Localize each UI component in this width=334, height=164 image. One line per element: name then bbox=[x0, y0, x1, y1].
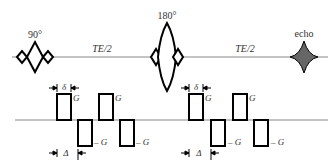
small-delta-label: δ bbox=[194, 82, 199, 92]
gradient-neg-g-label: – G bbox=[270, 137, 285, 147]
gradient-neg-g-label: – G bbox=[135, 137, 150, 147]
rf-pulse-90 bbox=[17, 42, 53, 72]
pulse-sequence-diagram: 90° TE/2 180° TE/2 echo G G – G – G δ Δ bbox=[0, 0, 334, 164]
big-delta-label: Δ bbox=[62, 148, 68, 158]
te-half-label-2: TE/2 bbox=[235, 43, 254, 54]
gradient-g-label: G bbox=[249, 93, 256, 103]
te-half-label-1: TE/2 bbox=[92, 43, 111, 54]
gradient-g-label: G bbox=[205, 93, 212, 103]
echo-label: echo bbox=[295, 28, 314, 39]
gradient-g-label: G bbox=[73, 93, 80, 103]
gradient-neg-g-label: – G bbox=[93, 137, 108, 147]
small-delta-label: δ bbox=[62, 82, 67, 92]
big-delta-label: Δ bbox=[195, 148, 201, 158]
rf-pulse-180 bbox=[151, 23, 183, 91]
gradient-g-label: G bbox=[115, 93, 122, 103]
pulse-180-label: 180° bbox=[158, 10, 177, 21]
pulse-90-label: 90° bbox=[28, 29, 42, 40]
echo-signal-icon bbox=[290, 41, 318, 73]
gradient-neg-g-label: – G bbox=[227, 137, 242, 147]
